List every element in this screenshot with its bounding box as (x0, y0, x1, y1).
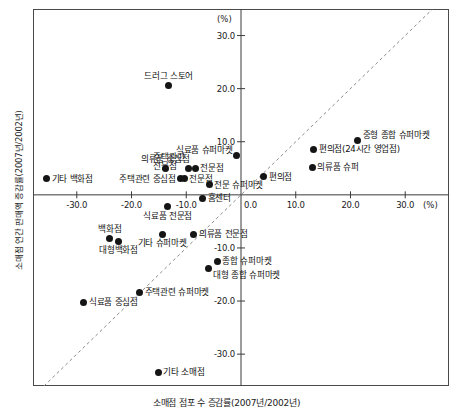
x-tick-label: 20.0 (341, 200, 359, 210)
y-tick-label: -10.0 (214, 243, 235, 253)
data-point-label: 의류품 슈퍼 (317, 163, 358, 172)
data-point-label: 홈센터 (208, 194, 231, 203)
x-tick-label: 10.0 (287, 200, 305, 210)
data-point-label: 종합 슈퍼마켓 (222, 257, 271, 266)
data-point-label: 주택관련 슈퍼마켓 (145, 288, 209, 297)
x-tick-label: -10.0 (176, 200, 197, 210)
data-point-label: 전문 슈퍼마켓 (214, 180, 263, 189)
data-point (106, 235, 113, 242)
data-point-label: 식료품 중심점 (89, 298, 138, 307)
y-axis-unit: (%) (217, 14, 232, 24)
data-point (309, 164, 316, 171)
data-point (136, 289, 143, 296)
data-point (185, 165, 192, 172)
y-axis-title: 소매점 연간 판매액 증감률(2007년/2002년) (12, 90, 24, 290)
data-point (181, 175, 188, 182)
y-tick-label: -30.0 (214, 349, 235, 359)
data-point-label: 식료품 슈퍼마켓 (176, 145, 233, 154)
data-point-label: 식료품 전문점 (143, 211, 192, 220)
data-point-label: 대형 종합 슈퍼마켓 (213, 271, 280, 280)
data-point (199, 195, 206, 202)
data-point-label: 주택관련전문점 (153, 154, 184, 171)
data-point-label: 중형 종합 슈퍼마켓 (363, 131, 430, 140)
axes-and-series (33, 9, 449, 386)
x-tick-label: 0.0 (244, 200, 257, 210)
x-tick-label: -20.0 (121, 200, 142, 210)
data-point-label: 전문점 (200, 164, 223, 173)
data-point-label: 의류품 전문점 (199, 230, 248, 239)
x-tick-label: -30.0 (66, 200, 87, 210)
data-point (205, 265, 212, 272)
data-point-label: 기타 슈퍼마켓 (138, 239, 187, 248)
data-point-label: 기타 백화점 (52, 175, 93, 184)
data-point (80, 299, 87, 306)
data-point (192, 165, 199, 172)
y-tick-label: 30.0 (217, 31, 235, 41)
x-axis-unit: (%) (423, 200, 438, 210)
data-point (310, 146, 317, 153)
x-axis-title: 소매점 점포 수 증감률(2007년/2002년) (0, 396, 453, 409)
data-point (354, 137, 361, 144)
data-point (115, 238, 122, 245)
data-point-label: 드러그 스토어 (144, 72, 193, 81)
data-point-label: 백화점 (98, 225, 121, 234)
data-point (155, 369, 162, 376)
data-point (214, 258, 221, 265)
data-point-label: 전문점 (189, 175, 212, 184)
diagonal-reference-line (44, 9, 433, 386)
data-point-label: 대형백화점 (99, 246, 138, 255)
x-tick-label: 30.0 (396, 200, 414, 210)
data-point (159, 231, 166, 238)
data-point-label: 편의점 (269, 172, 292, 181)
data-point-label: 편의점(24시간 영업점) (319, 145, 400, 154)
data-point-label: 주택관련 중심점 (119, 175, 176, 184)
y-tick-label: -20.0 (214, 296, 235, 306)
data-point-label: 기타 소매점 (163, 368, 204, 377)
y-tick-label: 20.0 (217, 84, 235, 94)
scatter-chart: -30.0-20.0-10.00.010.020.030.030.020.010… (0, 0, 453, 418)
